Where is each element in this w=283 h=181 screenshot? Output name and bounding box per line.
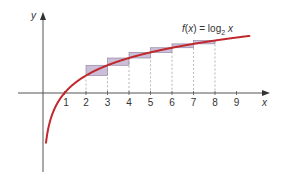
x-tick-label: 7 bbox=[191, 97, 197, 108]
log-curve bbox=[46, 36, 249, 143]
x-tick-label: 4 bbox=[126, 97, 132, 108]
x-tick-label: 9 bbox=[234, 97, 240, 108]
x-tick-label: 3 bbox=[105, 97, 111, 108]
x-tick-label: 1 bbox=[63, 97, 69, 108]
log-function-chart: 123456789 x y f(x) = log2 x bbox=[0, 0, 283, 181]
function-label: f(x) = log2 x bbox=[182, 23, 234, 36]
x-tick-label: 8 bbox=[212, 97, 218, 108]
axes bbox=[18, 12, 270, 172]
x-tick-label: 5 bbox=[148, 97, 154, 108]
function-log: ) = log bbox=[193, 23, 221, 34]
x-tick-label: 6 bbox=[169, 97, 175, 108]
function-arg: x bbox=[225, 23, 234, 34]
y-axis-arrow-icon bbox=[40, 12, 46, 20]
y-axis-label: y bbox=[30, 10, 37, 21]
x-axis-label: x bbox=[261, 97, 268, 108]
x-tick-label: 2 bbox=[83, 97, 89, 108]
x-axis-arrow-icon bbox=[262, 90, 270, 96]
x-ticks: 123456789 bbox=[63, 91, 240, 108]
